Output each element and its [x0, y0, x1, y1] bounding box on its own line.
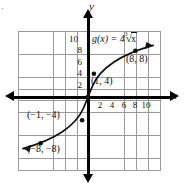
function-name: g(x) [92, 33, 108, 44]
cube-root-radical-icon: 3√x [125, 33, 137, 44]
point-label-1-4: (1, 4) [91, 76, 113, 86]
point-label-neg8-neg8: (−8, −8) [27, 144, 60, 154]
radicand: x [131, 32, 137, 44]
function-curve [0, 0, 184, 189]
point-label-neg1-neg4: (−1, −4) [27, 110, 60, 120]
graph-figure: · y x 10 8 6 4 2 2 4 6 8 10 g(x) = 43√x … [0, 0, 184, 189]
function-label: g(x) = 43√x [92, 33, 137, 44]
radical-index: 3 [125, 29, 128, 40]
point-label-8-8: (8, 8) [126, 54, 148, 64]
